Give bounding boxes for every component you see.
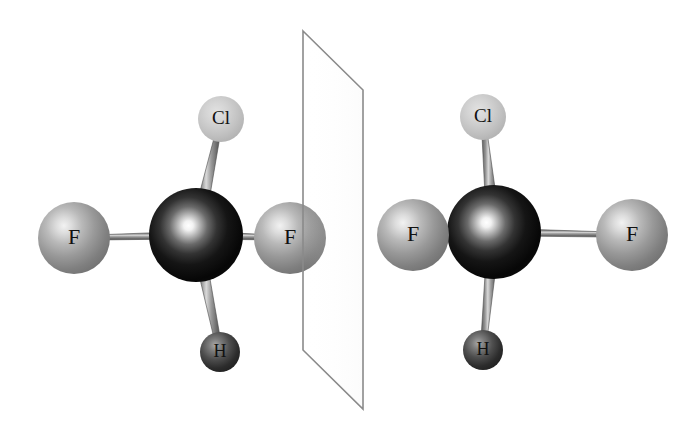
atom-h-right[interactable]: H [463,330,503,370]
atom-sphere[interactable] [149,188,243,282]
atom-cl-left[interactable]: Cl [198,96,244,142]
atom-label-cl: Cl [212,107,230,128]
atom-c-right[interactable] [447,185,541,279]
atom-group-right: FFClH [377,94,668,370]
atom-label-f: F [626,221,638,246]
atom-cl-right[interactable]: Cl [460,94,506,140]
atom-label-h: H [214,341,227,361]
mirror-plane-group [303,31,363,409]
atom-label-f: F [284,224,296,249]
atom-label-h: H [477,339,490,359]
atom-f-right[interactable]: F [377,199,449,271]
molecule-scene: FFClH FFClH [0,0,700,431]
atom-f-left[interactable]: F [38,202,110,274]
atom-sphere[interactable] [447,185,541,279]
atom-f-right[interactable]: F [596,199,668,271]
molecule-mirror-figure: FFClH FFClH [0,0,700,431]
atom-label-f: F [407,221,419,246]
atom-label-cl: Cl [474,105,492,126]
atom-label-f: F [68,224,80,249]
atom-h-left[interactable]: H [200,332,240,372]
mirror-plane[interactable] [303,31,363,409]
atom-c-left[interactable] [149,188,243,282]
atom-group-left: FFClH [38,96,326,372]
